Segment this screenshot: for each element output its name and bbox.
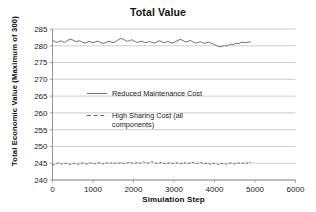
y-tick-label-245: 245 [34, 159, 48, 168]
tick-marks-group [50, 29, 296, 183]
x-tick-label-5000: 5000 [246, 185, 264, 194]
y-tick-label-250: 250 [34, 142, 48, 151]
y-tick-label-270: 270 [34, 75, 48, 84]
chart-legend: Reduced Maintenance CostHigh Sharing Cos… [87, 89, 202, 129]
x-tick-label-1000: 1000 [84, 185, 102, 194]
y-tick-label-240: 240 [34, 176, 48, 185]
chart-container: Total Value Total Economic Value (Maximu… [0, 0, 316, 212]
legend-label-1: High Sharing Cost (all [112, 111, 183, 120]
legend-label-1-line2: components) [112, 120, 154, 129]
y-tick-label-275: 275 [34, 58, 48, 67]
legend-label-0: Reduced Maintenance Cost [112, 89, 202, 98]
y-tick-label-260: 260 [34, 109, 48, 118]
x-tick-label-0: 0 [50, 185, 55, 194]
y-tick-label-255: 255 [34, 126, 48, 135]
x-tick-label-2000: 2000 [125, 185, 143, 194]
x-tick-label-4000: 4000 [206, 185, 224, 194]
y-tick-labels-group: 240245250255260265270275280285 [34, 25, 48, 185]
axes-group [53, 29, 296, 180]
x-tick-label-6000: 6000 [287, 185, 305, 194]
gridlines-group [53, 29, 296, 180]
y-tick-label-285: 285 [34, 25, 48, 34]
plot-area: 240245250255260265270275280285 010002000… [0, 0, 316, 212]
x-tick-label-3000: 3000 [165, 185, 183, 194]
x-tick-labels-group: 0100020003000400050006000 [50, 185, 305, 194]
y-tick-label-280: 280 [34, 42, 48, 51]
y-tick-label-265: 265 [34, 92, 48, 101]
